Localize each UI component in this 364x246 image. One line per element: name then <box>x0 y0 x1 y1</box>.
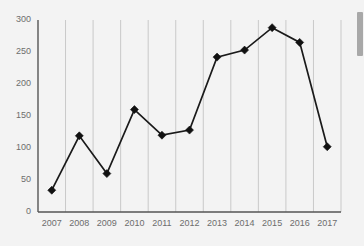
y-axis-tick-label: 300 <box>16 14 31 24</box>
data-point-marker <box>48 186 56 194</box>
data-point-marker <box>213 53 221 61</box>
x-axis-tick-label: 2013 <box>207 218 227 228</box>
data-point-marker <box>296 38 304 46</box>
vertical-scrollbar-track[interactable] <box>356 0 364 246</box>
y-axis-tick-labels: 050100150200250300 <box>16 14 31 216</box>
chart-canvas: 050100150200250300 200720082009201020112… <box>0 0 364 246</box>
x-axis-tick-label: 2009 <box>97 218 117 228</box>
vertical-scrollbar-thumb[interactable] <box>357 12 363 56</box>
y-axis-tick-label: 0 <box>26 206 31 216</box>
data-series-markers <box>48 24 331 195</box>
line-chart: 050100150200250300 200720082009201020112… <box>0 0 364 246</box>
y-axis-tick-label: 250 <box>16 46 31 56</box>
x-axis-tick-label: 2014 <box>235 218 255 228</box>
x-axis-tick-labels: 2007200820092010201120122013201420152016… <box>42 218 337 228</box>
x-axis-tick-label: 2017 <box>317 218 337 228</box>
data-point-marker <box>186 126 194 134</box>
y-axis-tick-label: 100 <box>16 142 31 152</box>
x-axis-tick-label: 2010 <box>124 218 144 228</box>
y-axis-tick-label: 50 <box>21 174 31 184</box>
x-axis-tick-label: 2008 <box>69 218 89 228</box>
data-point-marker <box>323 143 331 151</box>
y-axis-tick-label: 200 <box>16 78 31 88</box>
gridlines-group <box>66 20 341 212</box>
x-axis-tick-label: 2015 <box>262 218 282 228</box>
y-axis-tick-label: 150 <box>16 110 31 120</box>
x-axis-tick-label: 2012 <box>179 218 199 228</box>
x-axis-tick-label: 2016 <box>290 218 310 228</box>
x-axis-tick-label: 2011 <box>152 218 171 228</box>
axes-group <box>38 20 341 212</box>
x-axis-tick-label: 2007 <box>42 218 62 228</box>
